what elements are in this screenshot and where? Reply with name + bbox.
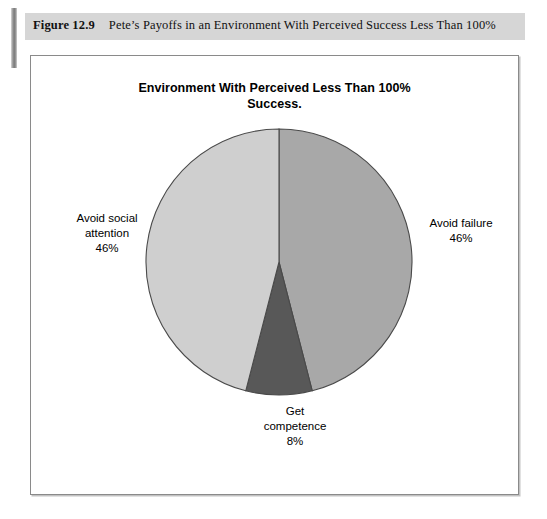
pie-label-get-competence: Get competence 8% — [233, 404, 357, 449]
pie-label-left-value: 46% — [45, 241, 169, 256]
figure-page: Figure 12.9Pete’s Payoffs in an Environm… — [0, 0, 547, 519]
pie-label-bottom-line-1: Get — [233, 404, 357, 419]
pie-label-right-line-1: Avoid failure — [403, 216, 519, 231]
pie-label-avoid-social-attention: Avoid social attention 46% — [45, 211, 169, 256]
pie-label-left-line-2: attention — [45, 226, 169, 241]
chart-title-line-1: Environment With Perceived Less Than 100… — [31, 80, 518, 96]
pie-label-bottom-value: 8% — [233, 434, 357, 449]
figure-number: Figure 12.9 — [33, 18, 95, 32]
pie-label-avoid-failure: Avoid failure 46% — [403, 216, 519, 246]
figure-caption: Figure 12.9Pete’s Payoffs in an Environm… — [33, 18, 523, 33]
chart-title: Environment With Perceived Less Than 100… — [31, 80, 518, 112]
pie-chart — [145, 128, 413, 396]
pie-label-left-line-1: Avoid social — [45, 211, 169, 226]
figure-caption-text: Pete’s Payoffs in an Environment With Pe… — [109, 18, 496, 32]
chart-container: Environment With Perceived Less Than 100… — [30, 55, 519, 495]
page-gutter-artifact — [11, 8, 17, 68]
pie-label-bottom-line-2: competence — [233, 419, 357, 434]
pie-chart-svg — [145, 128, 413, 396]
pie-label-right-value: 46% — [403, 231, 519, 246]
chart-title-line-2: Success. — [31, 96, 518, 112]
